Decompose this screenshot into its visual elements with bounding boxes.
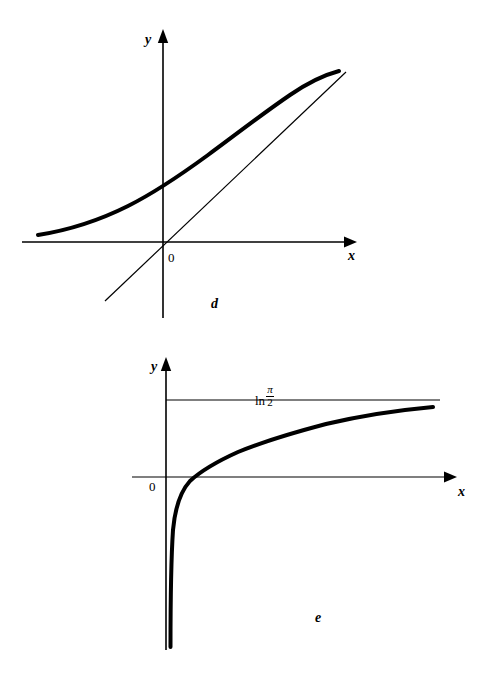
asymptote-fraction: π 2: [266, 384, 274, 408]
figure-d-caption: d: [211, 296, 219, 311]
figure-d-plot: y x 0 d: [0, 0, 489, 340]
asymptote-denominator: 2: [266, 397, 274, 409]
figure-e-caption: e: [315, 610, 321, 625]
figure-d-y-axis-label: y: [143, 32, 152, 47]
asymptote-numerator: π: [266, 384, 274, 396]
figure-d-origin-label: 0: [168, 250, 175, 265]
figure-e-y-axis-label: y: [149, 359, 158, 374]
figure-d-curve: [38, 71, 339, 235]
figure-e-x-axis: [132, 472, 457, 483]
figure-d-x-axis: [22, 237, 357, 248]
figure-e-x-axis-label: x: [457, 484, 465, 499]
figure-d-straight-line: [105, 72, 346, 301]
figure-e-origin-label: 0: [149, 479, 156, 494]
figure-e-curve: [171, 407, 434, 647]
figure-e-asymptote-label: ln π 2: [255, 384, 274, 408]
figure-d-y-axis: [158, 29, 168, 318]
figure-d: y x 0 d: [0, 0, 489, 340]
figure-e: y x 0 e ln π 2: [0, 340, 489, 675]
figure-e-plot: y x 0 e: [0, 340, 489, 675]
asymptote-ln-text: ln: [255, 394, 265, 408]
figure-d-x-axis-label: x: [347, 248, 355, 263]
